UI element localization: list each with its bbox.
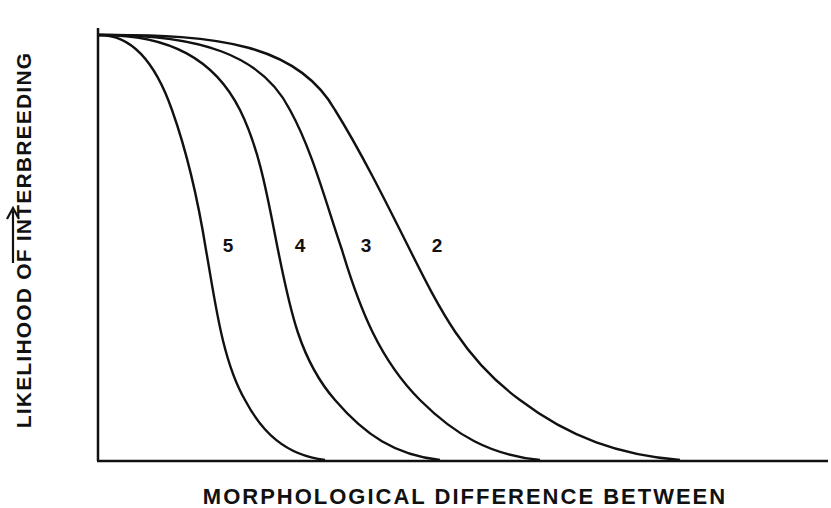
curve-5 [98,35,325,460]
y-axis-label: LIKELIHOOD OF INTERBREEDING [12,52,36,429]
curve-label-3: 3 [361,235,372,257]
x-axis-label: MORPHOLOGICAL DIFFERENCE BETWEEN [203,484,727,508]
curve-label-4: 4 [295,235,306,257]
curve-2 [98,35,680,460]
curve-3 [98,35,540,460]
curve-4 [98,35,440,460]
curve-label-2: 2 [432,235,443,257]
curve-label-5: 5 [223,235,234,257]
